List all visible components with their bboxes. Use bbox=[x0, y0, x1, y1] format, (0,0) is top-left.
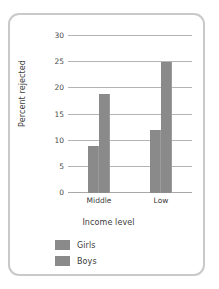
gridline: 30 bbox=[68, 35, 192, 36]
y-axis-tick-label: 30 bbox=[54, 35, 64, 36]
legend-label: Girls bbox=[77, 241, 96, 250]
x-axis-tick-label: Middle bbox=[87, 196, 112, 205]
bar-boys-middle bbox=[99, 94, 110, 193]
chart-legend: GirlsBoys bbox=[55, 237, 97, 269]
bar-boys-low bbox=[161, 62, 172, 193]
chart-plot-wrapper: Percent rejected 051015202530MiddleLow I… bbox=[10, 15, 207, 278]
gridline: 20 bbox=[68, 87, 192, 88]
x-axis-tick-label: Low bbox=[154, 196, 169, 205]
plot-area: 051015202530MiddleLow bbox=[68, 36, 192, 193]
y-axis-tick-label: 15 bbox=[54, 114, 64, 115]
y-axis-tick-label: 10 bbox=[54, 140, 64, 141]
legend-swatch-boys bbox=[55, 256, 70, 266]
figure-root: Percent rejected 051015202530MiddleLow I… bbox=[0, 0, 219, 289]
y-axis-tick-label: 5 bbox=[59, 166, 64, 167]
y-axis-title: Percent rejected bbox=[18, 44, 27, 144]
bar-girls-low bbox=[150, 130, 161, 193]
legend-swatch-girls bbox=[55, 240, 70, 250]
y-axis-tick-label: 0 bbox=[59, 192, 64, 193]
gridline: 10 bbox=[68, 140, 192, 141]
scan-artifact-text bbox=[14, 0, 134, 9]
chart-card: Percent rejected 051015202530MiddleLow I… bbox=[8, 13, 205, 276]
y-axis-tick-label: 25 bbox=[54, 61, 64, 62]
gridline: 5 bbox=[68, 166, 192, 167]
gridline: 25 bbox=[68, 61, 192, 62]
x-axis-baseline: 0 bbox=[68, 192, 192, 193]
x-axis-title: Income level bbox=[10, 218, 207, 227]
legend-label: Boys bbox=[77, 257, 97, 266]
y-axis-tick-label: 20 bbox=[54, 87, 64, 88]
gridline: 15 bbox=[68, 114, 192, 115]
legend-item-girls: Girls bbox=[55, 237, 97, 253]
bar-girls-middle bbox=[88, 146, 99, 193]
legend-item-boys: Boys bbox=[55, 253, 97, 269]
